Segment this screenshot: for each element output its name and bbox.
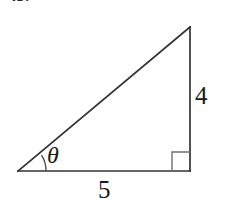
angle-arc	[42, 155, 47, 171]
triangle-svg	[0, 0, 226, 216]
triangle-outline	[18, 27, 190, 171]
right-angle-marker	[172, 152, 190, 171]
figure-container: 43. 4 5 θ	[0, 0, 226, 216]
hypotenuse-side	[18, 27, 190, 171]
side-label-adjacent: 5	[98, 177, 111, 202]
angle-label-theta: θ	[47, 143, 59, 167]
side-label-opposite: 4	[195, 83, 208, 108]
